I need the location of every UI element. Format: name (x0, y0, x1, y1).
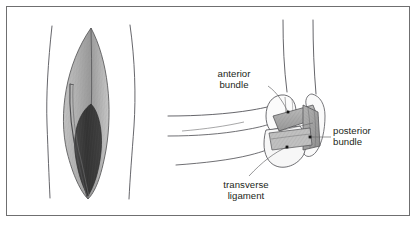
forearm-contour-inferior (176, 146, 276, 165)
label-transverse-ligament-line2: ligament (228, 190, 265, 201)
marker-dot-anterior (287, 111, 290, 114)
label-transverse-ligament-line1: transverse (223, 179, 268, 190)
forearm-contour-middle (168, 124, 270, 136)
left-panel-limb (47, 20, 135, 210)
figure-root: anterior bundle posterior bundle transve… (0, 0, 416, 227)
marker-dot-posterior (309, 136, 312, 139)
limb-contour-right (129, 25, 135, 199)
humerus-contour-medial (283, 20, 287, 92)
marker-dot-transverse (286, 146, 289, 149)
label-posterior-bundle-line2: bundle (333, 136, 362, 147)
label-posterior-bundle: posterior bundle (333, 125, 413, 148)
label-posterior-bundle-line1: posterior (333, 125, 371, 136)
humerus-contour-lateral (313, 20, 316, 94)
label-anterior-bundle-line2: bundle (219, 79, 248, 90)
forearm-muscle-crease (182, 122, 244, 131)
forearm-contour-superior (168, 104, 278, 116)
label-anterior-bundle-line1: anterior (218, 68, 251, 79)
label-transverse-ligament: transverse ligament (198, 179, 294, 202)
right-panel-elbow (168, 20, 331, 176)
label-anterior-bundle: anterior bundle (196, 68, 272, 91)
limb-contour-left (47, 26, 52, 198)
